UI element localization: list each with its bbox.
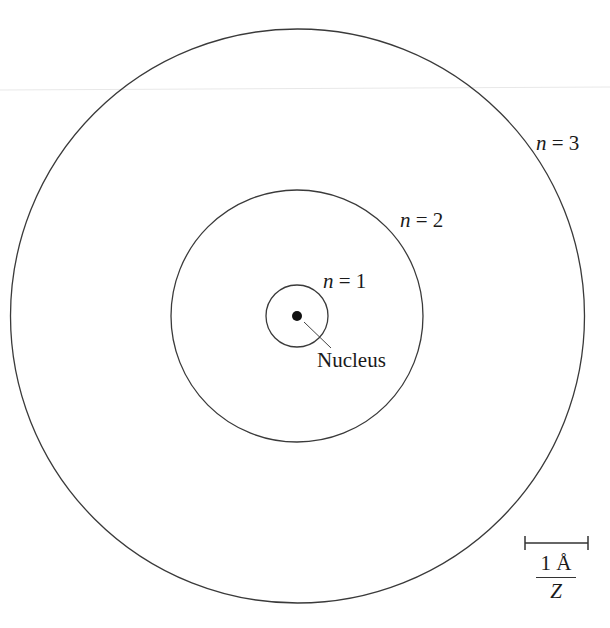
scale-denominator: Z — [526, 578, 586, 602]
orbit-n2-label: n = 2 — [400, 210, 443, 231]
orbit-n1-var: n — [323, 269, 334, 293]
orbit-n3-var: n — [536, 131, 547, 155]
orbit-n1-label: n = 1 — [323, 271, 366, 292]
orbit-n1-eq: = — [334, 269, 356, 293]
bohr-orbit-diagram — [0, 0, 610, 628]
orbit-n3-label: n = 3 — [536, 133, 579, 154]
orbit-n2-eq: = — [411, 208, 433, 232]
scale-numerator: 1 Å — [536, 553, 576, 578]
nucleus-label: Nucleus — [317, 350, 386, 371]
scan-artifact-line — [0, 87, 610, 90]
orbit-n3-eq: = — [547, 131, 569, 155]
orbit-n2-var: n — [400, 208, 411, 232]
orbit-n3-value: 3 — [569, 131, 580, 155]
orbit-n2-value: 2 — [433, 208, 444, 232]
scale-bar — [525, 536, 588, 550]
orbit-n1-value: 1 — [356, 269, 367, 293]
nucleus-dot — [292, 311, 302, 321]
scale-bar-label: 1 Å Z — [526, 553, 586, 602]
